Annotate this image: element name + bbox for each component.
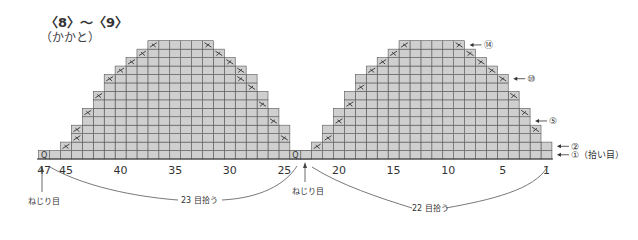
grid-cell (377, 134, 388, 142)
grid-cell (443, 83, 454, 91)
stitch-label: 20 (332, 164, 346, 177)
grid-cell (443, 142, 454, 150)
grid-cell (497, 151, 508, 159)
grid-cell (246, 151, 257, 159)
grid-cell (410, 100, 421, 108)
grid-cell (454, 142, 465, 150)
grid-cell (224, 117, 235, 125)
grid-cell (192, 134, 203, 142)
grid-cell (366, 142, 377, 150)
grid-cell (148, 151, 159, 159)
grid-cell (71, 142, 82, 150)
grid-cell (410, 83, 421, 91)
grid-cell (388, 66, 399, 74)
grid-cell (235, 91, 246, 99)
grid-cell (170, 134, 181, 142)
grid-cell (410, 41, 421, 49)
grid-cell (465, 125, 476, 133)
grid-cell (159, 108, 170, 116)
grid-cell (334, 125, 345, 133)
grid-cell (355, 100, 366, 108)
grid-cell (323, 151, 334, 159)
grid-cell (465, 91, 476, 99)
grid-cell (399, 66, 410, 74)
grid-cell (388, 100, 399, 108)
grid-cell (181, 41, 192, 49)
grid-cell (213, 117, 224, 125)
grid-cell (399, 100, 410, 108)
grid-cell (519, 117, 530, 125)
grid-cell (454, 66, 465, 74)
arrowhead-icon (557, 144, 561, 148)
grid-cell (137, 117, 148, 125)
grid-cell (410, 108, 421, 116)
grid-cell (159, 83, 170, 91)
grid-cell (410, 58, 421, 66)
grid-cell (170, 125, 181, 133)
grid-cell (475, 151, 486, 159)
grid-cell (202, 151, 213, 159)
grid-cell (170, 75, 181, 83)
grid-cell (126, 66, 137, 74)
grid-cell (399, 134, 410, 142)
grid-cell (159, 125, 170, 133)
arrowhead-icon (535, 119, 539, 123)
grid-cell (366, 75, 377, 83)
grid-cell (421, 41, 432, 49)
grid-cell (454, 151, 465, 159)
grid-cell (399, 125, 410, 133)
grid-cell (246, 100, 257, 108)
grid-cell (475, 100, 486, 108)
grid-cell (454, 108, 465, 116)
stitch-label: 1 (543, 164, 550, 177)
grid-cell (497, 117, 508, 125)
grid-cell (104, 134, 115, 142)
grid-cell (159, 66, 170, 74)
grid-cell (61, 151, 72, 159)
grid-cell (170, 49, 181, 57)
row-label: ⑤ (549, 116, 557, 126)
grid-cell (465, 58, 476, 66)
grid-cell (246, 125, 257, 133)
grid-cell (181, 58, 192, 66)
grid-cell (443, 75, 454, 83)
grid-cell (257, 125, 268, 133)
grid-cell (454, 75, 465, 83)
grid-cell (377, 151, 388, 159)
grid-cell (170, 117, 181, 125)
grid-cell (159, 142, 170, 150)
grid-cell (137, 75, 148, 83)
grid-cell (137, 142, 148, 150)
grid-cell (344, 151, 355, 159)
grid-cell (148, 49, 159, 57)
grid-cell (93, 117, 104, 125)
grid-cell (421, 117, 432, 125)
grid-cell (475, 83, 486, 91)
grid-cell (399, 117, 410, 125)
grid-cell (279, 142, 290, 150)
grid-cell (377, 91, 388, 99)
grid-cell (93, 108, 104, 116)
grid-cell (181, 100, 192, 108)
grid-cell (159, 100, 170, 108)
grid-cell (181, 49, 192, 57)
pickup-curve-right (446, 166, 548, 208)
grid-cell (475, 134, 486, 142)
grid-cell (475, 117, 486, 125)
grid-cell (443, 108, 454, 116)
grid-cell (202, 108, 213, 116)
grid-cell (115, 117, 126, 125)
grid-cell (432, 58, 443, 66)
grid-cell (126, 83, 137, 91)
grid-cell (519, 134, 530, 142)
grid-cell (355, 151, 366, 159)
grid-cell (148, 117, 159, 125)
grid-cell (465, 83, 476, 91)
grid-cell (224, 108, 235, 116)
grid-cell (421, 125, 432, 133)
grid-cell (432, 151, 443, 159)
grid-cell (202, 58, 213, 66)
grid-cell (486, 91, 497, 99)
grid-cell (170, 100, 181, 108)
grid-cell (126, 108, 137, 116)
